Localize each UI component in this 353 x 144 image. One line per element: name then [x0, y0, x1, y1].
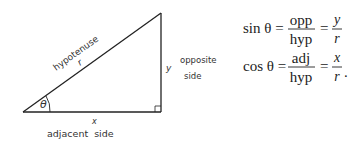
sin-num2: y — [332, 12, 341, 27]
theta-label: θ — [40, 98, 47, 111]
right-triangle-diagram: θ hypotenuse r y opposite side x adjacen… — [0, 0, 353, 144]
sin-formula: sin θ = opp hyp = y r — [243, 12, 342, 47]
sin-eq: = — [320, 20, 328, 36]
side-label: side — [184, 71, 201, 81]
sin-den2: r — [334, 31, 340, 46]
sin-num1: opp — [290, 12, 313, 28]
opposite-label: opposite — [180, 55, 217, 65]
cos-den1: hyp — [290, 69, 313, 85]
x-label: x — [91, 117, 97, 126]
adjacent-label: adjacent side — [47, 128, 114, 139]
sin-lhs: sin θ = — [243, 20, 284, 36]
cos-lhs: cos θ = — [243, 58, 286, 74]
sin-den1: hyp — [290, 31, 313, 47]
cos-formula: cos θ = adj hyp = x r . — [243, 50, 348, 85]
hypotenuse-label: hypotenuse — [51, 33, 100, 72]
r-label: r — [75, 57, 85, 68]
cos-num2: x — [333, 50, 341, 65]
cos-den2: r — [334, 69, 340, 84]
y-label: y — [165, 63, 172, 73]
cos-num1: adj — [292, 50, 310, 66]
cos-eq: = — [320, 58, 328, 74]
right-angle-mark — [155, 106, 161, 112]
cos-end: . — [344, 64, 348, 80]
